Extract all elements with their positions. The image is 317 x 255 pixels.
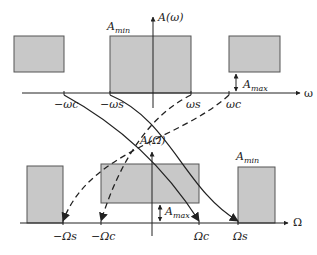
bottom-x-axis-label: Ω bbox=[293, 217, 302, 228]
tick-neg-Ws: −Ωs bbox=[53, 231, 77, 242]
bottom-left-stopband-box bbox=[27, 166, 63, 223]
top-x-axis-label: ω bbox=[304, 88, 313, 99]
tick-wc: ωc bbox=[226, 99, 241, 110]
tick-ws: ωs bbox=[186, 99, 201, 110]
tick-Wc: Ωc bbox=[194, 231, 209, 242]
bottom-y-axis-label: A(Ω) bbox=[140, 135, 166, 146]
tick-neg-Wc: −Ωc bbox=[91, 231, 116, 242]
tick-neg-wc: −ωc bbox=[54, 99, 78, 110]
top-left-stopband-box bbox=[14, 36, 64, 72]
bottom-amax-label: Amax bbox=[165, 206, 190, 220]
bottom-amin-label: Amin bbox=[236, 151, 259, 165]
top-right-stopband-box bbox=[229, 36, 280, 72]
top-center-box bbox=[110, 36, 191, 93]
top-amin-label: Amin bbox=[107, 21, 130, 35]
top-amax-label: Amax bbox=[243, 79, 268, 93]
tick-neg-ws: −ωs bbox=[100, 99, 124, 110]
diagram: A(ω) ω Amin Amax −ωc −ωs ωs ωc A(Ω) Ω Am… bbox=[0, 0, 317, 255]
diagram-graphics bbox=[0, 0, 317, 255]
bottom-center-box bbox=[101, 164, 199, 203]
tick-Ws: Ωs bbox=[233, 231, 248, 242]
bottom-right-stopband-box bbox=[238, 167, 275, 223]
top-y-axis-label: A(ω) bbox=[158, 12, 184, 23]
top-plot bbox=[14, 17, 300, 108]
